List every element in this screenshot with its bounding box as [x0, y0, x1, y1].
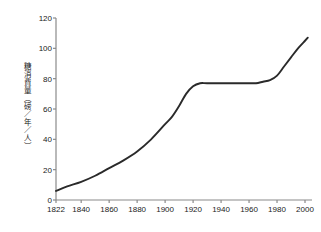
y-axis-tick-label: 120 — [30, 14, 52, 23]
sugar-consumption-line-chart: 糖消費量（磅／年／人） 020406080100120 182218401860… — [0, 0, 321, 232]
x-axis-tick-label: 1900 — [156, 205, 174, 214]
axis-lines — [56, 18, 312, 200]
x-axis-tick-label: 1940 — [212, 205, 230, 214]
y-axis-tick-label: 80 — [30, 74, 52, 83]
y-axis-tick-label: 60 — [30, 105, 52, 114]
y-axis-tick-label: 20 — [30, 165, 52, 174]
y-axis-tick-label: 0 — [30, 196, 52, 205]
x-axis-tick-label: 1822 — [47, 205, 65, 214]
x-axis-tick-label: 1840 — [72, 205, 90, 214]
x-axis-tick-label: 1860 — [100, 205, 118, 214]
x-axis-tick-label: 1880 — [128, 205, 146, 214]
y-axis-tick-label: 40 — [30, 135, 52, 144]
x-axis-tick-label: 1980 — [268, 205, 286, 214]
data-series-line — [56, 38, 308, 191]
x-axis-tick-label: 1920 — [184, 205, 202, 214]
x-axis-tick-label: 2000 — [296, 205, 314, 214]
y-axis-tick-label: 100 — [30, 44, 52, 53]
x-axis-tick-label: 1960 — [240, 205, 258, 214]
